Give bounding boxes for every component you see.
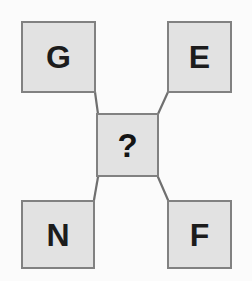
node-box-e[interactable]: E xyxy=(167,21,232,93)
connector-e-to-center xyxy=(158,92,168,114)
node-box-center[interactable]: ? xyxy=(96,113,159,177)
diagram-canvas: G E ? N F xyxy=(0,0,252,281)
node-box-n[interactable]: N xyxy=(21,200,95,269)
node-label-e: E xyxy=(189,41,210,73)
node-box-f[interactable]: F xyxy=(167,200,232,269)
connector-f-to-center xyxy=(158,177,168,200)
node-label-f: F xyxy=(190,219,210,251)
node-label-g: G xyxy=(46,41,71,73)
node-box-g[interactable]: G xyxy=(21,21,96,93)
node-label-n: N xyxy=(46,219,69,251)
connector-g-to-center xyxy=(95,92,98,114)
node-label-question-mark: ? xyxy=(117,129,137,162)
connector-n-to-center xyxy=(94,177,98,200)
